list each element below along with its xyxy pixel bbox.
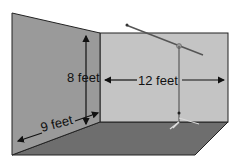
width-label: 12 feet	[138, 73, 178, 88]
height-label: 8 feet	[67, 70, 100, 85]
room-diagram: 8 feet 12 feet 9 feet	[0, 0, 235, 165]
room-svg: 8 feet 12 feet 9 feet	[0, 0, 235, 165]
